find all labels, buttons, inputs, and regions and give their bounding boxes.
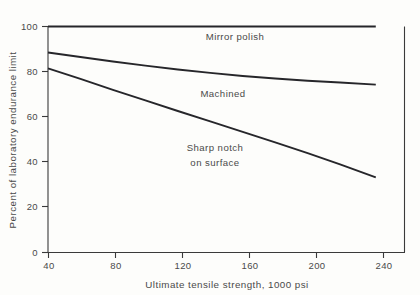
series-line-machined <box>48 52 376 84</box>
x-tick-label-40: 40 <box>43 260 54 271</box>
y-axis-title: Percent of laboratory endurance limit <box>7 52 18 229</box>
y-tick-label-40: 40 <box>27 156 38 167</box>
x-axis-title: Ultimate tensile strength, 1000 psi <box>145 279 308 290</box>
x-tick-label-240: 240 <box>375 260 392 271</box>
x-tick-label-200: 200 <box>308 260 325 271</box>
y-tick-label-100: 100 <box>21 21 38 32</box>
series-label-sharp-notch-line1: Sharp notch <box>187 142 244 153</box>
x-tick-label-80: 80 <box>110 260 121 271</box>
chart-figure: 100 80 60 40 20 0 40 80 120 160 200 240 … <box>0 0 420 295</box>
y-tick-marks <box>42 27 48 253</box>
x-tick-label-160: 160 <box>241 260 258 271</box>
series-label-sharp-notch-line2: on surface <box>190 157 239 168</box>
series-label-machined: Machined <box>200 88 245 99</box>
x-tick-label-120: 120 <box>174 260 191 271</box>
series-group <box>48 27 376 178</box>
y-tick-label-80: 80 <box>27 66 38 77</box>
y-tick-label-0: 0 <box>32 247 38 258</box>
x-tick-marks <box>49 253 384 259</box>
y-tick-label-60: 60 <box>27 111 38 122</box>
series-label-mirror-polish: Mirror polish <box>206 31 265 42</box>
x-tick-labels: 40 80 120 160 200 240 <box>43 260 392 271</box>
y-tick-labels: 100 80 60 40 20 0 <box>21 21 38 258</box>
y-tick-label-20: 20 <box>27 201 38 212</box>
chart-canvas: 100 80 60 40 20 0 40 80 120 160 200 240 … <box>0 0 420 295</box>
